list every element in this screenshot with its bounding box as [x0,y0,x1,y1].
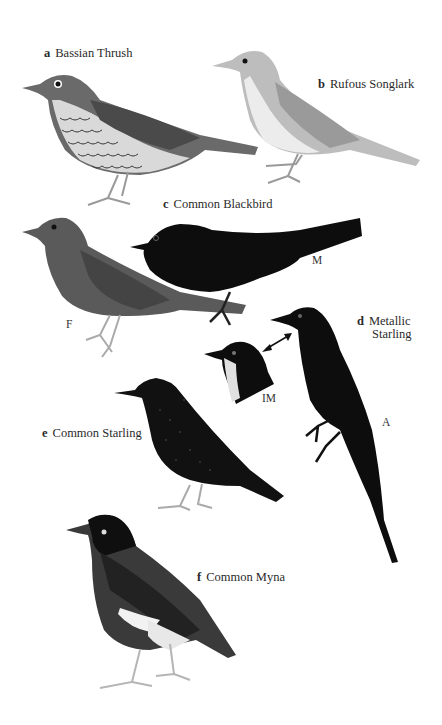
species-name: Common Starling [53,426,142,440]
bassian-thrush-illustration [22,75,258,205]
species-label-e: eCommon Starling [42,426,142,440]
common-myna-illustration [66,515,236,688]
species-name: Starling [372,327,412,341]
species-letter: f [197,570,201,584]
species-name: Metallic [369,314,411,328]
species-name: Common Myna [206,570,285,584]
species-name: Common Blackbird [174,197,273,211]
bird-illustrations [0,0,442,725]
tag-immature: IM [262,392,276,404]
species-label-c: cCommon Blackbird [163,197,273,211]
species-letter: e [42,426,48,440]
tag-adult: A [382,416,390,428]
species-label-a: aBassian Thrush [44,46,132,60]
double-arrow-icon [262,333,292,352]
rufous-songlark-illustration [212,51,420,183]
metallic-starling-adult-illustration [270,307,398,563]
species-name: Rufous Songlark [330,77,414,91]
species-letter: d [357,314,364,328]
species-name: Bassian Thrush [55,46,132,60]
species-label-b: bRufous Songlark [318,77,414,91]
species-letter: b [318,77,325,91]
tag-male: M [312,254,322,266]
species-letter: c [163,197,169,211]
species-label-d: dMetallic [357,314,411,328]
species-letter: a [44,46,50,60]
common-starling-illustration [114,378,284,510]
species-label-f: fCommon Myna [197,570,285,584]
tag-female: F [66,318,72,330]
species-label-d-line2: Starling [372,327,412,341]
